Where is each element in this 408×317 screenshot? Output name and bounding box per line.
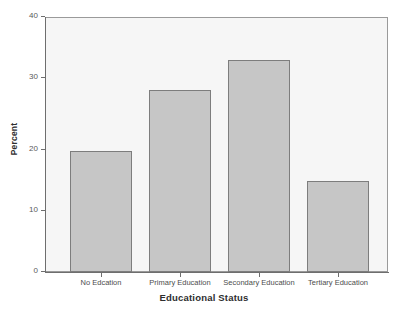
y-tick-label: 30 (29, 72, 38, 82)
x-tick-mark-tertiary-education (338, 273, 339, 277)
x-tick-mark-secondary-education (259, 273, 260, 277)
bar-primary-education[interactable] (149, 90, 211, 272)
bar-secondary-education[interactable] (228, 60, 290, 273)
x-tick-label-primary-education: Primary Education (149, 278, 210, 288)
y-tick-label: 0 (34, 266, 38, 276)
y-tick-mark (41, 77, 45, 78)
x-tick-label-tertiary-education: Tertiary Education (308, 278, 368, 288)
x-tick-label-no-education: No Edcation (81, 278, 122, 288)
y-tick-label: 40 (29, 11, 38, 21)
bar-chart: 40 30 20 10 0 No Edcation Primary Educat… (0, 0, 408, 317)
y-tick-mark (41, 271, 45, 272)
x-tick-mark-no-education (101, 273, 102, 277)
x-tick-label-secondary-education: Secondary Education (223, 278, 294, 288)
y-tick-mark (41, 16, 45, 17)
x-axis-title: Educational Status (0, 292, 408, 303)
bar-no-education[interactable] (70, 151, 132, 272)
y-tick-mark (41, 149, 45, 150)
y-axis-line (45, 17, 46, 273)
bar-tertiary-education[interactable] (307, 181, 369, 272)
y-tick-label: 20 (29, 144, 38, 154)
bars-layer (45, 17, 388, 272)
y-axis-title: Percent (9, 104, 19, 174)
y-tick-mark (41, 210, 45, 211)
x-tick-mark-primary-education (180, 273, 181, 277)
y-tick-label: 10 (29, 205, 38, 215)
